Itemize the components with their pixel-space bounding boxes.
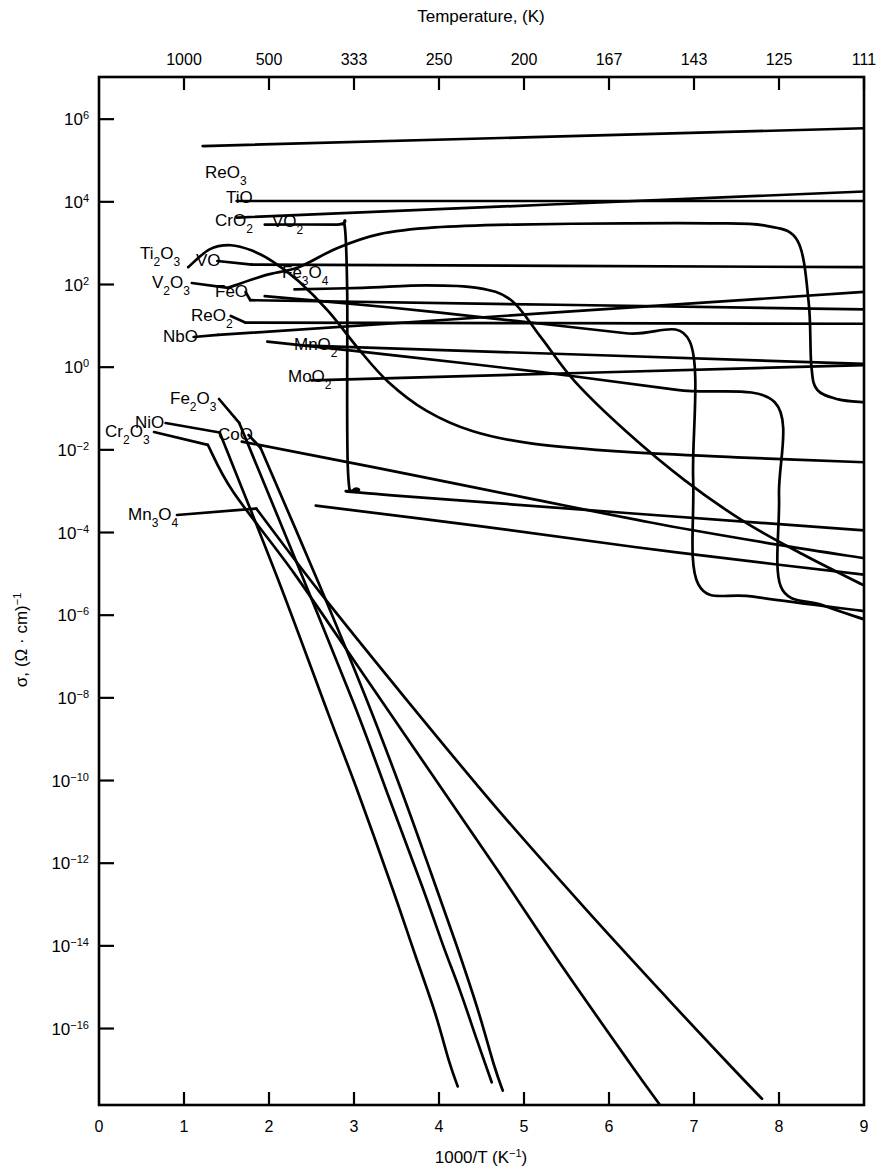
top-tick-label: 250 [426, 51, 453, 68]
conductivity-chart: 1000500333250200167143125111 Temperature… [0, 0, 894, 1174]
curve-ReO2 [245, 323, 864, 324]
svg-text:σ,(Ω · cm)−1: σ,(Ω · cm)−1 [11, 593, 31, 688]
curve-label-NbO: NbO [163, 327, 198, 346]
canvas-background [0, 0, 894, 1174]
bottom-tick-label: 9 [860, 1118, 869, 1135]
bottom-tick-label: 7 [690, 1118, 699, 1135]
top-tick-label: 200 [511, 51, 538, 68]
curve-label-FeO: FeO [215, 282, 248, 301]
top-axis-title: Temperature, (K) [417, 7, 545, 26]
top-tick-label: 500 [256, 51, 283, 68]
curve-label-TiO: TiO [226, 188, 253, 207]
bottom-tick-label: 5 [520, 1118, 529, 1135]
top-tick-label: 125 [766, 51, 793, 68]
bottom-tick-label: 3 [350, 1118, 359, 1135]
bottom-tick-label: 0 [95, 1118, 104, 1135]
top-tick-label: 111 [852, 51, 876, 68]
bottom-tick-label: 1 [180, 1118, 189, 1135]
y-axis-title: σ,(Ω · cm)−1 [11, 593, 31, 688]
bottom-tick-label: 4 [435, 1118, 444, 1135]
top-tick-label: 1000 [166, 51, 202, 68]
figure-root: 1000500333250200167143125111 Temperature… [0, 0, 894, 1174]
top-axis-tick-labels: 1000500333250200167143125111 [166, 51, 876, 68]
top-tick-label: 167 [596, 51, 623, 68]
bottom-tick-label: 2 [265, 1118, 274, 1135]
curve-label-VO: VO [196, 251, 221, 270]
bottom-tick-label: 6 [605, 1118, 614, 1135]
top-tick-label: 143 [681, 51, 708, 68]
top-tick-label: 333 [341, 51, 368, 68]
curve-label-CoO: CoO [218, 425, 253, 444]
bottom-tick-label: 8 [775, 1118, 784, 1135]
